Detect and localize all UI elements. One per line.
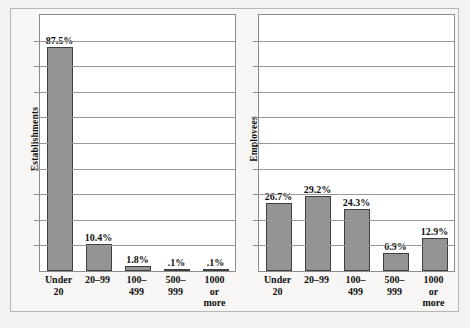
bar-employees-4[interactable] (422, 238, 448, 271)
x-axis-category-label: 20–99 (297, 274, 336, 286)
gridline (259, 169, 454, 170)
x-axis-category-line: 100– (336, 274, 375, 286)
x-axis-category-label: 500–999 (375, 274, 414, 297)
x-axis-category-line: 499 (117, 286, 156, 298)
x-axis-category-label: 500–999 (156, 274, 195, 297)
x-axis-category-line: 100– (117, 274, 156, 286)
bar-value-label: 12.9% (421, 226, 449, 237)
gridline (259, 143, 454, 144)
chart-panel-establishments: Establishments 87.5%10.4%1.8%.1%.1% Unde… (18, 8, 236, 312)
gridline (259, 41, 454, 42)
gridline (259, 66, 454, 67)
y-axis-tick (34, 220, 40, 221)
x-axis-category-label: 20–99 (78, 274, 117, 286)
x-axis-category-line: 499 (336, 286, 375, 298)
gridline (259, 92, 454, 93)
chart-panel-employees: Employees 26.7%29.2%24.3%6.9%12.9% Under… (239, 8, 457, 312)
chart-panels: Establishments 87.5%10.4%1.8%.1%.1% Unde… (10, 8, 459, 312)
y-axis-tick (253, 220, 259, 221)
bar-value-label: 1.8% (126, 254, 149, 265)
x-axis-category-line: Under 20 (258, 274, 297, 297)
gridline (40, 117, 235, 118)
x-axis-category-label: 100–499 (336, 274, 375, 297)
y-axis-tick (253, 143, 259, 144)
x-axis-category-line: 1000 (414, 274, 453, 286)
figure-root: Establishments 87.5%10.4%1.8%.1%.1% Unde… (0, 0, 470, 328)
gridline (40, 194, 235, 195)
plot-area-establishments: 87.5%10.4%1.8%.1%.1% (39, 14, 236, 272)
x-axis-category-line: 999 (156, 286, 195, 298)
bar-value-label: .1% (207, 257, 225, 268)
bar-establishments-1[interactable] (86, 244, 112, 271)
x-axis-category-line: 1000 (195, 274, 234, 286)
x-axis-category-line: or (195, 286, 234, 298)
x-axis-category-line: more (414, 297, 453, 309)
bar-establishments-3[interactable] (164, 269, 190, 271)
bar-employees-2[interactable] (344, 209, 370, 271)
plot-area-employees: 26.7%29.2%24.3%6.9%12.9% (258, 14, 455, 272)
y-axis-tick (34, 169, 40, 170)
bar-employees-1[interactable] (305, 196, 331, 271)
bar-employees-3[interactable] (383, 253, 409, 271)
x-axis-category-label: 1000ormore (195, 274, 234, 309)
x-axis-category-line: 500– (375, 274, 414, 286)
x-axis-category-line: 999 (375, 286, 414, 298)
y-axis-tick (253, 245, 259, 246)
y-axis-tick (253, 92, 259, 93)
y-axis-tick (34, 66, 40, 67)
bar-value-label: 10.4% (85, 232, 113, 243)
x-axis-category-line: 20–99 (78, 274, 117, 286)
y-axis-tick (34, 117, 40, 118)
x-axis-category-line: Under 20 (39, 274, 78, 297)
gridline (40, 143, 235, 144)
y-axis-tick (34, 41, 40, 42)
bar-establishments-2[interactable] (125, 266, 151, 271)
bar-value-label: .1% (168, 257, 186, 268)
gridline (259, 117, 454, 118)
y-axis-tick (34, 245, 40, 246)
bar-value-label: 26.7% (265, 191, 293, 202)
x-axis-labels-establishments: Under 2020–99100–499500–9991000ormore (39, 274, 236, 320)
bar-establishments-4[interactable] (203, 269, 229, 271)
y-axis-tick (34, 194, 40, 195)
gridline (40, 92, 235, 93)
x-axis-category-label: Under 20 (258, 274, 297, 297)
gridline (40, 169, 235, 170)
bar-establishments-0[interactable] (47, 47, 73, 271)
y-axis-tick (34, 143, 40, 144)
x-axis-category-line: or (414, 286, 453, 298)
y-axis-tick (253, 66, 259, 67)
gridline (259, 220, 454, 221)
bar-employees-0[interactable] (266, 203, 292, 271)
bar-value-label: 24.3% (343, 197, 371, 208)
gridline (40, 41, 235, 42)
gridline (40, 220, 235, 221)
y-axis-tick (34, 92, 40, 93)
gridline (40, 245, 235, 246)
x-axis-category-label: 100–499 (117, 274, 156, 297)
x-axis-labels-employees: Under 2020–99100–499500–9991000ormore (258, 274, 455, 320)
x-axis-category-label: 1000ormore (414, 274, 453, 309)
gridline (259, 245, 454, 246)
gridline (40, 66, 235, 67)
gridline (259, 194, 454, 195)
x-axis-category-line: 20–99 (297, 274, 336, 286)
x-axis-category-line: more (195, 297, 234, 309)
y-axis-tick (253, 194, 259, 195)
y-axis-tick (253, 169, 259, 170)
x-axis-category-label: Under 20 (39, 274, 78, 297)
x-axis-category-line: 500– (156, 274, 195, 286)
y-axis-tick (253, 41, 259, 42)
y-axis-tick (253, 117, 259, 118)
bar-value-label: 6.9% (384, 241, 407, 252)
